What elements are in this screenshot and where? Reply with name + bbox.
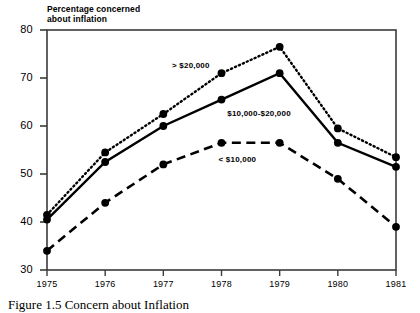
data-series-group [43,43,400,255]
x-tick-label: 1976 [85,279,125,289]
y-tick-label: 70 [11,71,33,83]
y-tick-label: 50 [11,167,33,179]
data-point-marker [101,158,109,166]
y-tick-label: 60 [11,119,33,131]
data-point-marker [334,139,342,147]
data-point-marker [43,216,51,224]
x-tick-label: 1979 [260,279,300,289]
data-point-marker [101,149,109,157]
series-label: > $20,000 [172,61,210,70]
data-point-marker [159,110,167,118]
data-point-marker [276,139,284,147]
data-point-marker [334,175,342,183]
data-point-marker [276,69,284,77]
y-tick-label: 30 [11,263,33,275]
plot-frame [47,30,396,270]
data-point-marker [392,163,400,171]
y-axis-ticks [40,30,47,270]
x-axis-ticks [47,270,396,276]
data-point-marker [218,139,226,147]
x-tick-label: 1975 [27,279,67,289]
x-tick-label: 1981 [376,279,416,289]
series-label: $10,000-$20,000 [227,109,291,118]
figure-caption: Figure 1.5 Concern about Inflation [8,297,420,313]
data-point-marker [159,122,167,130]
data-point-marker [392,223,400,231]
data-point-marker [334,124,342,132]
x-tick-label: 1978 [202,279,242,289]
data-point-marker [392,153,400,161]
y-tick-label: 80 [11,23,33,35]
series-label: < $10,000 [219,155,257,164]
data-point-marker [159,161,167,169]
data-point-marker [276,43,284,51]
y-tick-label: 40 [11,215,33,227]
x-tick-label: 1980 [318,279,358,289]
data-point-marker [218,69,226,77]
data-point-marker [43,247,51,255]
x-tick-label: 1977 [143,279,183,289]
data-point-marker [101,199,109,207]
data-point-marker [218,96,226,104]
